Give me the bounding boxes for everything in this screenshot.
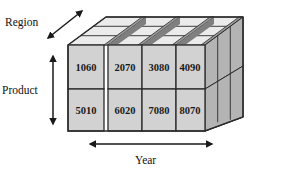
cube-cell: 5010 bbox=[68, 89, 104, 131]
cell-value: 8070 bbox=[180, 105, 201, 116]
cell-value: 1060 bbox=[76, 62, 97, 73]
cell-value: 4090 bbox=[180, 62, 201, 73]
cell-value: 5010 bbox=[76, 105, 97, 116]
region-axis-label: Region bbox=[5, 16, 38, 29]
cell-value: 2070 bbox=[115, 62, 136, 73]
year-axis-label: Year bbox=[135, 154, 156, 166]
cube-body: 1060 5010 2070 6020 3080 7080 4090 bbox=[68, 17, 243, 131]
data-cube-figure: Region Product bbox=[0, 0, 284, 171]
cube-cell: 4090 bbox=[176, 45, 205, 89]
cell-value: 7080 bbox=[149, 105, 170, 116]
cube-cell: 3080 bbox=[142, 45, 176, 89]
cube-cell: 8070 bbox=[176, 89, 205, 131]
cell-value: 6020 bbox=[115, 105, 136, 116]
cube-cell: 7080 bbox=[142, 89, 176, 131]
cube-cell: 6020 bbox=[108, 89, 142, 131]
cell-value: 3080 bbox=[149, 62, 170, 73]
cube-cell: 1060 bbox=[68, 45, 104, 89]
cube-cell: 2070 bbox=[108, 45, 142, 89]
product-axis-label: Product bbox=[2, 84, 39, 96]
